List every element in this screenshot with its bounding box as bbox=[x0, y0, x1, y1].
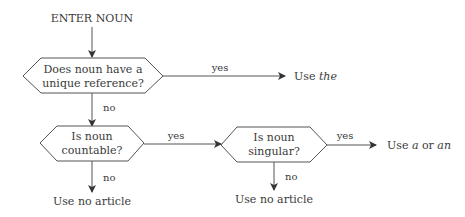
decision-singular: Is noun singular? bbox=[221, 127, 327, 162]
outcome-no-article-2: Use no article bbox=[235, 193, 313, 206]
decision-3-line1: Is noun bbox=[253, 131, 294, 144]
decision-unique-reference: Does noun have a unique reference? bbox=[23, 58, 163, 93]
decision-1-line2: unique reference? bbox=[42, 77, 144, 90]
decision-1-line1: Does noun have a bbox=[44, 63, 143, 76]
outcome-use-a-or-an: Use a or an bbox=[387, 139, 451, 152]
edge-label-q2-yes: yes bbox=[167, 130, 185, 141]
decision-2-line2: countable? bbox=[62, 144, 123, 157]
edge-label-q1-yes: yes bbox=[211, 62, 229, 73]
edge-label-q3-no: no bbox=[285, 171, 297, 182]
start-label: ENTER NOUN bbox=[51, 12, 134, 25]
edge-label-q2-no: no bbox=[103, 172, 115, 183]
decision-countable: Is noun countable? bbox=[40, 126, 144, 161]
flowchart: ENTER NOUN Does noun have a unique refer… bbox=[0, 0, 465, 217]
decision-3-line2: singular? bbox=[248, 145, 300, 158]
decision-2-line1: Is noun bbox=[71, 130, 112, 143]
edge-label-q3-yes: yes bbox=[336, 130, 354, 141]
outcome-use-the: Use the bbox=[294, 70, 337, 83]
outcome-no-article-1: Use no article bbox=[53, 195, 131, 208]
edge-label-q1-no: no bbox=[103, 102, 115, 113]
